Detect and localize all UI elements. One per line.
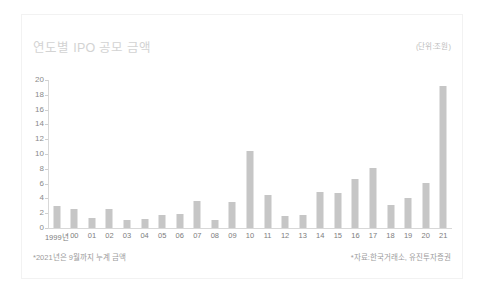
- bar[interactable]: [282, 216, 289, 228]
- bar[interactable]: [106, 209, 113, 228]
- x-tick-label: 20: [421, 231, 429, 240]
- x-tick-label: 06: [176, 231, 184, 240]
- bar[interactable]: [88, 218, 95, 228]
- y-tick-label: 4: [40, 193, 44, 202]
- bar-slot: [83, 80, 101, 228]
- bar-slot: [153, 80, 171, 228]
- bar-slot: [276, 80, 294, 228]
- y-tick-label: 18: [35, 90, 44, 99]
- x-tick-label: 03: [123, 231, 131, 240]
- bar-slot: [241, 80, 259, 228]
- y-tick-label: 10: [35, 149, 44, 158]
- y-tick-label: 14: [35, 119, 44, 128]
- x-axis-line: [48, 228, 452, 229]
- x-tick-label: 15: [334, 231, 342, 240]
- x-tick-label: 08: [211, 231, 219, 240]
- bar-slot: [206, 80, 224, 228]
- x-tick-label: 07: [193, 231, 201, 240]
- bar[interactable]: [141, 219, 148, 228]
- x-tick-label: 16: [351, 231, 359, 240]
- bar-slot: [382, 80, 400, 228]
- bar[interactable]: [71, 209, 78, 228]
- bar[interactable]: [176, 214, 183, 228]
- y-tick-mark: [45, 228, 48, 229]
- bar[interactable]: [405, 198, 412, 228]
- bar-slot: [171, 80, 189, 228]
- bar-slot: [136, 80, 154, 228]
- x-tick-label: 12: [281, 231, 289, 240]
- x-tick-label: 10: [246, 231, 254, 240]
- y-tick-label: 2: [40, 208, 44, 217]
- x-tick-label: 1999년: [45, 231, 69, 242]
- bar[interactable]: [369, 168, 376, 228]
- x-tick-label: 13: [299, 231, 307, 240]
- bar[interactable]: [387, 205, 394, 228]
- y-tick-label: 0: [40, 223, 44, 232]
- bar-slot: [189, 80, 207, 228]
- bar[interactable]: [159, 215, 166, 228]
- x-axis-labels: 1999년00010203040506070809101112131415161…: [48, 231, 452, 243]
- bar-slot: [224, 80, 242, 228]
- bar-slot: [399, 80, 417, 228]
- bar-slot: [294, 80, 312, 228]
- plot-area: 20181614121086420: [48, 80, 452, 228]
- x-tick-label: 00: [70, 231, 78, 240]
- bar[interactable]: [440, 86, 447, 228]
- x-tick-label: 14: [316, 231, 324, 240]
- bar-slot: [364, 80, 382, 228]
- y-tick-label: 8: [40, 164, 44, 173]
- x-tick-label: 09: [228, 231, 236, 240]
- x-tick-label: 11: [264, 231, 272, 240]
- bar[interactable]: [53, 206, 60, 228]
- bar-slot: [434, 80, 452, 228]
- x-tick-label: 18: [386, 231, 394, 240]
- bar[interactable]: [124, 220, 131, 228]
- x-tick-label: 05: [158, 231, 166, 240]
- x-tick-label: 01: [88, 231, 96, 240]
- bar-slot: [259, 80, 277, 228]
- bar-slot: [311, 80, 329, 228]
- bar[interactable]: [229, 202, 236, 228]
- footnote-left: *2021년은 9월까지 누계 금액: [33, 251, 126, 262]
- chart-unit-label: (단위:조원): [416, 40, 451, 51]
- y-tick-label: 6: [40, 179, 44, 188]
- x-tick-label: 17: [369, 231, 377, 240]
- bar[interactable]: [317, 192, 324, 228]
- bar[interactable]: [334, 193, 341, 228]
- bar[interactable]: [422, 183, 429, 228]
- bar-slot: [118, 80, 136, 228]
- x-tick-label: 19: [404, 231, 412, 240]
- bar-slot: [347, 80, 365, 228]
- bar[interactable]: [352, 179, 359, 228]
- bar[interactable]: [211, 220, 218, 228]
- y-tick-label: 20: [35, 75, 44, 84]
- bar[interactable]: [299, 215, 306, 228]
- bar[interactable]: [194, 201, 201, 228]
- bar-slot: [417, 80, 435, 228]
- bar-series: [48, 80, 452, 228]
- bar-slot: [329, 80, 347, 228]
- bar-slot: [66, 80, 84, 228]
- bar-slot: [48, 80, 66, 228]
- chart-title: 연도별 IPO 공모 금액: [33, 37, 152, 56]
- chart-figure: 연도별 IPO 공모 금액 (단위:조원) 20181614121086420 …: [0, 0, 484, 292]
- x-tick-label: 04: [140, 231, 148, 240]
- footnote-right: *자료:한국거래소, 유진투자증권: [351, 251, 451, 262]
- bar-slot: [101, 80, 119, 228]
- bar[interactable]: [246, 151, 253, 228]
- x-tick-label: 02: [105, 231, 113, 240]
- x-tick-label: 21: [439, 231, 447, 240]
- y-tick-label: 12: [35, 134, 44, 143]
- y-tick-label: 16: [35, 105, 44, 114]
- bar[interactable]: [264, 195, 271, 228]
